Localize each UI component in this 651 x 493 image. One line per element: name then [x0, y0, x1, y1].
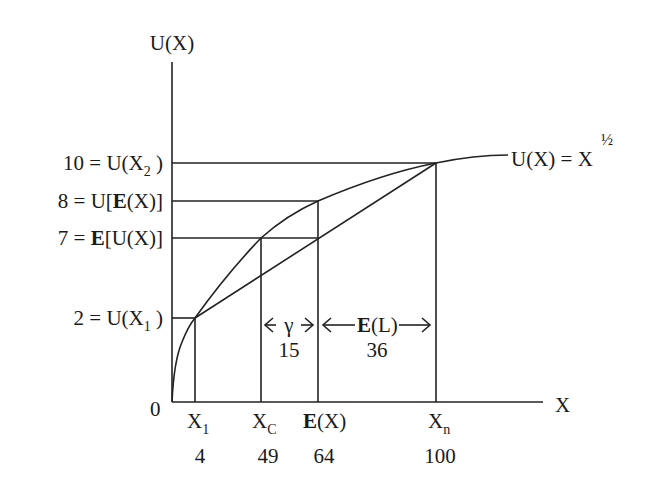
arrow-left-icon: [323, 318, 355, 332]
utility-diagram: U(X) X 0 U(X) = X ½ 10 = U(X2 ) 8 = U[E(…: [0, 0, 651, 493]
arrow-right-icon: [399, 318, 430, 332]
utility-curve: [172, 155, 508, 402]
arrow-right-icon: [301, 318, 313, 332]
y-tick-u8: 8 = U[E(X)]: [58, 189, 163, 213]
x-tick-xc-value: 49: [258, 444, 279, 468]
expected-loss-label: E(L): [357, 313, 398, 337]
x-axis-title: X: [555, 393, 570, 417]
x-tick-ex-name: E(X): [303, 409, 346, 433]
x-tick-xn-name: Xn: [428, 409, 450, 437]
gamma-value: 15: [279, 338, 300, 362]
risk-premium-annotation: γ 15: [265, 313, 313, 362]
y-tick-u10: 10 = U(X2 ): [63, 151, 163, 179]
arrow-left-icon: [265, 318, 276, 332]
gamma-label: γ: [283, 313, 293, 337]
vertical-guides: [195, 163, 436, 402]
expected-utility-chord: [195, 163, 436, 318]
x-tick-x1-name: X1: [187, 409, 209, 437]
origin-label: 0: [150, 397, 161, 421]
y-tick-u7: 7 = E[U(X)]: [58, 226, 163, 250]
axes: U(X) X 0: [150, 31, 570, 421]
x-tick-xc-name: XC: [252, 409, 277, 437]
y-tick-labels: 10 = U(X2 ) 8 = U[E(X)] 7 = E[U(X)] 2 = …: [58, 151, 163, 334]
expected-loss-annotation: E(L) 36: [323, 313, 430, 362]
y-axis-title: U(X): [150, 31, 194, 55]
x-tick-x1-value: 4: [195, 444, 206, 468]
expected-loss-value: 36: [367, 338, 388, 362]
curve-label: U(X) = X ½: [511, 131, 613, 171]
x-tick-ex-value: 64: [314, 444, 336, 468]
curve-label-exponent: ½: [601, 131, 613, 148]
curve-label-main: U(X) = X: [511, 147, 593, 171]
x-tick-xn-value: 100: [424, 444, 456, 468]
x-tick-labels: X1 4 XC 49 E(X) 64 Xn 100: [187, 409, 456, 468]
y-tick-u2: 2 = U(X1 ): [74, 306, 163, 334]
